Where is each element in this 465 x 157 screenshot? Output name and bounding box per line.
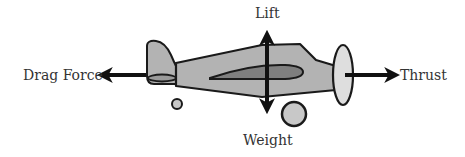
drag-force-label: Drag Force: [23, 68, 103, 82]
main-wheel: [282, 102, 306, 126]
tail-wheel: [172, 99, 182, 109]
horizontal-stabilizer: [148, 75, 176, 82]
thrust-label: Thrust: [400, 68, 447, 82]
lift-label: Lift: [255, 6, 280, 20]
weight-label: Weight: [243, 133, 293, 147]
